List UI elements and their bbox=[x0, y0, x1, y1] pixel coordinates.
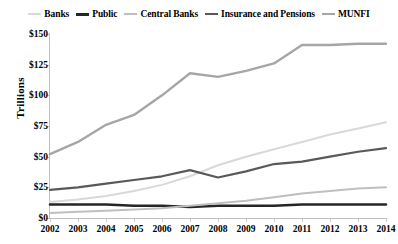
x-tick-mark bbox=[274, 219, 275, 222]
series-layer bbox=[50, 34, 386, 218]
x-tick-mark bbox=[358, 219, 359, 222]
x-tick-mark bbox=[78, 219, 79, 222]
x-tick-mark bbox=[246, 219, 247, 222]
series-line-public bbox=[50, 205, 386, 207]
legend-entry-munfi[interactable]: MUNFI bbox=[322, 9, 370, 19]
legend-label: Public bbox=[92, 9, 117, 19]
x-tick-mark bbox=[106, 219, 107, 222]
line-chart: BanksPublicCentral BanksInsurance and Pe… bbox=[0, 0, 398, 244]
legend-label: MUNFI bbox=[338, 9, 370, 19]
legend-label: Central Banks bbox=[140, 9, 198, 19]
x-tick-mark bbox=[162, 219, 163, 222]
x-tick-label: 2014 bbox=[366, 224, 398, 234]
y-tick-label: $50 bbox=[2, 152, 48, 162]
y-tick-label: $25 bbox=[2, 182, 48, 192]
x-tick-mark bbox=[190, 219, 191, 222]
legend-entry-insurance-and-pensions[interactable]: Insurance and Pensions bbox=[205, 9, 315, 19]
x-tick-mark bbox=[50, 219, 51, 222]
y-axis-ticks: $0$25$50$75$100$125$150 bbox=[0, 0, 48, 244]
series-line-central-banks bbox=[50, 187, 386, 213]
series-line-munfi bbox=[50, 44, 386, 154]
y-tick-label: $125 bbox=[2, 60, 48, 70]
y-tick-label: $100 bbox=[2, 90, 48, 100]
legend-entry-central-banks[interactable]: Central Banks bbox=[124, 9, 198, 19]
x-tick-mark bbox=[330, 219, 331, 222]
x-tick-mark bbox=[134, 219, 135, 222]
legend-label: Banks bbox=[44, 9, 69, 19]
chart-legend: BanksPublicCentral BanksInsurance and Pe… bbox=[0, 6, 398, 22]
legend-swatch-icon bbox=[76, 13, 89, 16]
plot-area bbox=[50, 34, 386, 218]
y-tick-label: $150 bbox=[2, 29, 48, 39]
x-tick-mark bbox=[386, 219, 387, 222]
legend-swatch-icon bbox=[322, 13, 335, 15]
legend-entry-public[interactable]: Public bbox=[76, 9, 117, 19]
x-tick-mark bbox=[302, 219, 303, 222]
y-tick-label: $75 bbox=[2, 121, 48, 131]
legend-swatch-icon bbox=[205, 13, 218, 15]
legend-label: Insurance and Pensions bbox=[221, 9, 315, 19]
series-line-insurance-and-pensions bbox=[50, 148, 386, 190]
x-tick-mark bbox=[218, 219, 219, 222]
y-tick-label: $0 bbox=[2, 213, 48, 223]
legend-swatch-icon bbox=[124, 13, 137, 15]
x-axis-ticks: 2002200320042005200620072008200920102011… bbox=[50, 219, 386, 241]
